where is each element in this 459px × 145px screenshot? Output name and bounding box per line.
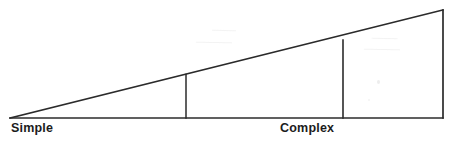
triangle-diagram-canvas bbox=[0, 0, 459, 145]
axis-label-complex: Complex bbox=[280, 122, 334, 135]
axis-label-simple: Simple bbox=[11, 122, 53, 135]
triangle-hypotenuse bbox=[10, 10, 443, 118]
triangle-continuum-diagram: ——— ———— ——— ———— Simple Complex bbox=[0, 0, 459, 145]
